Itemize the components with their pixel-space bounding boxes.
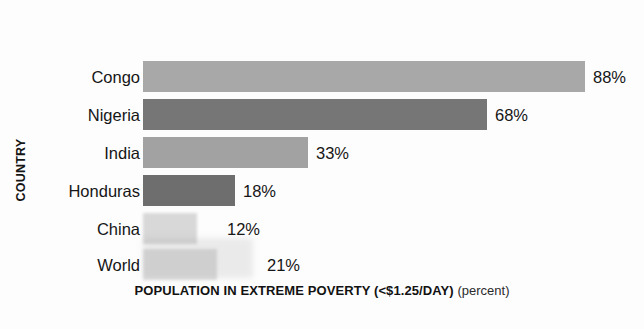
category-label-honduras: Honduras bbox=[68, 172, 140, 210]
x-axis-title-unit: (percent) bbox=[457, 283, 509, 298]
bar-row: China12% bbox=[0, 210, 644, 248]
chart-figure: COUNTRY Congo88%Nigeria68%India33%Hondur… bbox=[0, 0, 644, 329]
value-label-nigeria: 68% bbox=[495, 96, 528, 134]
value-label-honduras: 18% bbox=[243, 172, 276, 210]
value-label-world: 21% bbox=[267, 246, 300, 284]
bar-india bbox=[143, 137, 308, 168]
value-label-congo: 88% bbox=[593, 58, 626, 96]
plot-area: Congo88%Nigeria68%India33%Honduras18%Chi… bbox=[0, 0, 644, 329]
category-label-india: India bbox=[104, 134, 140, 172]
bar-congo bbox=[143, 61, 585, 92]
bar-row: Nigeria68% bbox=[0, 96, 644, 134]
bar-nigeria bbox=[143, 99, 487, 130]
bar-china bbox=[143, 213, 197, 244]
value-label-india: 33% bbox=[316, 134, 349, 172]
bar-row: World21% bbox=[0, 246, 644, 284]
x-axis-title: POPULATION IN EXTREME POVERTY (<$1.25/DA… bbox=[0, 283, 644, 298]
bar-honduras bbox=[143, 175, 235, 206]
bar-row: Congo88% bbox=[0, 58, 644, 96]
category-label-world: World bbox=[97, 246, 140, 284]
category-label-congo: Congo bbox=[91, 58, 140, 96]
category-label-china: China bbox=[97, 210, 140, 248]
value-label-china: 12% bbox=[227, 210, 260, 248]
bar-row: Honduras18% bbox=[0, 172, 644, 210]
bar-world bbox=[143, 249, 217, 280]
bar-row: India33% bbox=[0, 134, 644, 172]
category-label-nigeria: Nigeria bbox=[88, 96, 140, 134]
x-axis-title-main: POPULATION IN EXTREME POVERTY (<$1.25/DA… bbox=[135, 283, 454, 298]
